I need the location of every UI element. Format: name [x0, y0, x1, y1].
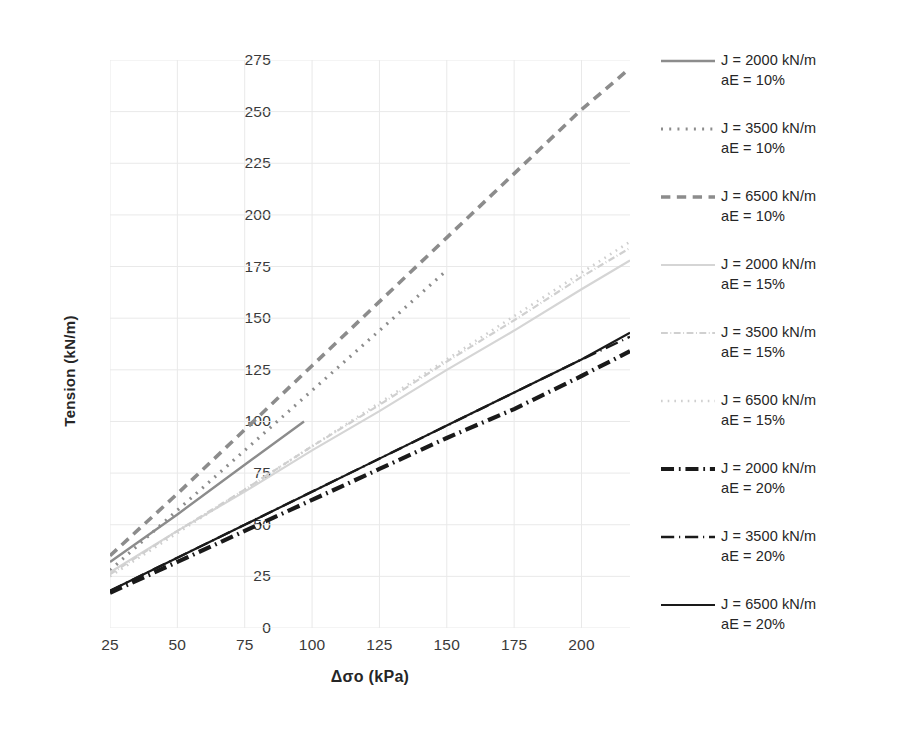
- legend-label: J = 3500 kN/maE = 20%: [721, 526, 816, 566]
- legend-item: J = 3500 kN/maE = 15%: [660, 322, 910, 379]
- legend-label-line1: J = 6500 kN/m: [721, 186, 816, 206]
- legend-label-line2: aE = 20%: [721, 546, 816, 566]
- chart-legend: J = 2000 kN/maE = 10%J = 3500 kN/maE = 1…: [660, 50, 910, 662]
- x-tick-label: 175: [484, 636, 544, 654]
- x-tick-label: 100: [282, 636, 342, 654]
- x-axis-title: Δσo (kPa): [110, 668, 630, 686]
- series-line: [110, 421, 304, 561]
- legend-line-swatch: [660, 187, 716, 207]
- legend-label-line2: aE = 10%: [721, 70, 816, 90]
- series-line: [110, 242, 630, 577]
- x-tick-label: 150: [417, 636, 477, 654]
- legend-item: J = 2000 kN/maE = 20%: [660, 458, 910, 515]
- legend-label: J = 3500 kN/maE = 10%: [721, 118, 816, 158]
- x-tick-label: 75: [215, 636, 275, 654]
- legend-label: J = 2000 kN/maE = 20%: [721, 458, 816, 498]
- legend-line-swatch: [660, 323, 716, 343]
- legend-label-line2: aE = 20%: [721, 478, 816, 498]
- series-line: [110, 68, 630, 555]
- series-line: [110, 273, 444, 570]
- legend-label-line1: J = 6500 kN/m: [721, 390, 816, 410]
- legend-label-line1: J = 2000 kN/m: [721, 254, 816, 274]
- legend-label-line2: aE = 10%: [721, 206, 816, 226]
- x-tick-label: 200: [552, 636, 612, 654]
- legend-label-line2: aE = 15%: [721, 342, 816, 362]
- x-tick-label: 125: [349, 636, 409, 654]
- legend-line-swatch: [660, 391, 716, 411]
- x-tick-label: 50: [147, 636, 207, 654]
- legend-label-line2: aE = 10%: [721, 138, 816, 158]
- series-line: [110, 333, 630, 591]
- legend-item: J = 6500 kN/maE = 20%: [660, 594, 910, 651]
- legend-label-line1: J = 3500 kN/m: [721, 322, 816, 342]
- legend-line-swatch: [660, 255, 716, 275]
- legend-item: J = 3500 kN/maE = 20%: [660, 526, 910, 583]
- legend-label: J = 3500 kN/maE = 15%: [721, 322, 816, 362]
- legend-label-line1: J = 3500 kN/m: [721, 526, 816, 546]
- x-tick-label: 25: [80, 636, 140, 654]
- series-line: [110, 351, 630, 593]
- legend-label-line2: aE = 20%: [721, 614, 816, 634]
- legend-item: J = 3500 kN/maE = 10%: [660, 118, 910, 175]
- legend-line-swatch: [660, 459, 716, 479]
- legend-item: J = 2000 kN/maE = 10%: [660, 50, 910, 107]
- legend-label: J = 6500 kN/maE = 10%: [721, 186, 816, 226]
- plot-area: [110, 60, 630, 628]
- legend-label: J = 6500 kN/maE = 20%: [721, 594, 816, 634]
- chart-figure: Tension (kN/m) 0255075100125150175200225…: [0, 0, 916, 741]
- legend-line-swatch: [660, 51, 716, 71]
- legend-line-swatch: [660, 527, 716, 547]
- legend-line-swatch: [660, 595, 716, 615]
- series-lines: [110, 60, 630, 628]
- legend-label: J = 2000 kN/maE = 15%: [721, 254, 816, 294]
- legend-label: J = 6500 kN/maE = 15%: [721, 390, 816, 430]
- legend-label-line2: aE = 15%: [721, 410, 816, 430]
- legend-label-line2: aE = 15%: [721, 274, 816, 294]
- legend-label: J = 2000 kN/maE = 10%: [721, 50, 816, 90]
- legend-line-swatch: [660, 119, 716, 139]
- legend-label-line1: J = 2000 kN/m: [721, 458, 816, 478]
- series-line: [110, 248, 630, 574]
- legend-label-line1: J = 3500 kN/m: [721, 118, 816, 138]
- legend-item: J = 6500 kN/maE = 10%: [660, 186, 910, 243]
- legend-label-line1: J = 6500 kN/m: [721, 594, 816, 614]
- legend-item: J = 6500 kN/maE = 15%: [660, 390, 910, 447]
- legend-item: J = 2000 kN/maE = 15%: [660, 254, 910, 311]
- legend-label-line1: J = 2000 kN/m: [721, 50, 816, 70]
